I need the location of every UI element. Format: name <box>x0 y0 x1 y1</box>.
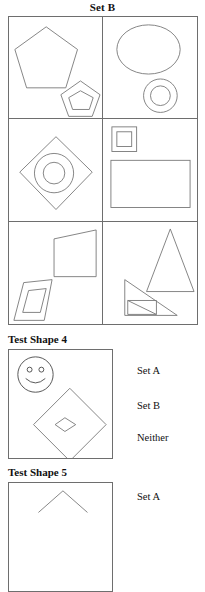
grid-cell-4 <box>103 119 197 221</box>
small-parallelogram-icon <box>14 279 52 320</box>
large-diamond-icon <box>34 388 107 458</box>
grid-cell-2 <box>103 17 197 119</box>
smiley-face-icon <box>18 357 53 392</box>
test-shape-4-figure <box>9 350 112 458</box>
inner-triangle-diagonal <box>128 300 157 314</box>
grid-cell-3 <box>9 119 103 221</box>
large-rectangle-icon <box>111 161 190 208</box>
inner-circle-icon <box>150 86 170 106</box>
diamond-circle-shapes <box>9 119 102 220</box>
test-shape-4-option-set-a[interactable]: Set A <box>137 365 160 377</box>
triangle-shapes <box>103 222 197 324</box>
set-b-shape-grid <box>8 16 198 325</box>
smiley-left-eye-icon <box>27 367 32 372</box>
quadrilateral-shapes <box>9 222 102 324</box>
large-diamond-icon <box>20 137 92 210</box>
inner-small-diamond-icon <box>55 418 76 432</box>
inner-square-icon <box>117 132 132 147</box>
test-shape-5-figure <box>9 483 112 591</box>
small-circle-icon <box>144 79 178 112</box>
small-pentagon-icon <box>61 81 100 116</box>
large-pentagon-icon <box>15 27 78 88</box>
small-right-triangle-icon <box>125 279 177 315</box>
test-shape-4-option-neither[interactable]: Neither <box>137 432 169 444</box>
rectangle-shapes <box>103 119 197 220</box>
grid-cell-1 <box>9 17 103 119</box>
test-shape-5-heading: Test Shape 5 <box>8 466 67 479</box>
smiley-right-eye-icon <box>39 367 44 372</box>
page-title: Set B <box>0 1 205 14</box>
large-circle-icon <box>117 25 180 74</box>
pentagon-shapes <box>9 17 102 118</box>
test-shape-5-box <box>8 482 113 592</box>
test-shape-4-box <box>8 349 113 459</box>
circle-shapes <box>103 17 197 118</box>
test-shape-4-heading: Test Shape 4 <box>8 333 67 346</box>
inner-quadrilateral-icon <box>23 288 46 312</box>
inner-pentagon-icon <box>69 91 93 110</box>
grid-cell-5 <box>9 222 103 324</box>
small-square-icon <box>112 127 137 152</box>
inner-circle-icon <box>43 163 65 185</box>
grid-cell-6 <box>103 222 197 324</box>
outer-circle-icon <box>34 154 73 193</box>
large-quadrilateral-icon <box>54 230 96 277</box>
chevron-partial-icon <box>38 491 87 513</box>
test-shape-5-option-set-a[interactable]: Set A <box>137 491 160 503</box>
test-shape-4-option-set-b[interactable]: Set B <box>137 400 160 412</box>
large-triangle-icon <box>147 229 194 292</box>
smiley-mouth-icon <box>26 378 46 382</box>
